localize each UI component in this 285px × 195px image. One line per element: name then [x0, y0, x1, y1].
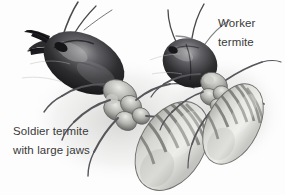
worker-label-line-1: Worker	[218, 14, 255, 33]
worker-termite-label: Worker termite	[218, 14, 255, 52]
soldier-label-line-1: Soldier termite	[13, 122, 90, 141]
soldier-label-line-2: with large jaws	[13, 141, 90, 160]
worker-label-line-2: termite	[218, 33, 255, 52]
soldier-termite-label: Soldier termite with large jaws	[13, 122, 90, 160]
termite-illustration-figure: Soldier termite with large jaws Worker t…	[0, 0, 285, 195]
